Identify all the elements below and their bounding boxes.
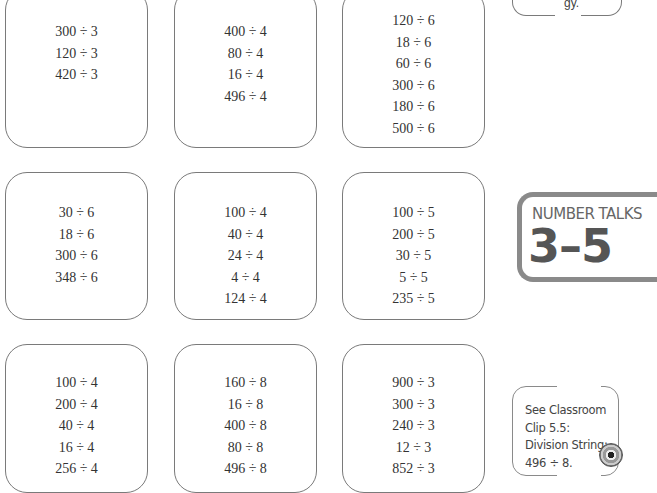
problem: 80 ÷ 4	[175, 43, 316, 65]
problem-card-r2c2: 100 ÷ 4 40 ÷ 4 24 ÷ 4 4 ÷ 4 124 ÷ 4	[174, 172, 317, 320]
problem: 80 ÷ 8	[175, 437, 316, 459]
problem: 100 ÷ 5	[343, 202, 484, 224]
problem: 300 ÷ 3	[343, 394, 484, 416]
badge-grade-range: 3–5	[528, 219, 612, 273]
problem: 18 ÷ 6	[6, 224, 147, 246]
problem: 60 ÷ 6	[343, 53, 484, 75]
problem: 124 ÷ 4	[175, 288, 316, 310]
problem: 235 ÷ 5	[343, 288, 484, 310]
problem: 300 ÷ 3	[6, 21, 147, 43]
problem: 420 ÷ 3	[6, 64, 147, 86]
problem: 200 ÷ 4	[6, 394, 147, 416]
problem: 496 ÷ 4	[175, 86, 316, 108]
problem: 200 ÷ 5	[343, 224, 484, 246]
top-note-text: gy.	[564, 0, 579, 10]
problem: 18 ÷ 6	[343, 32, 484, 54]
problem: 852 ÷ 3	[343, 458, 484, 480]
problem: 16 ÷ 4	[6, 437, 147, 459]
problem: 120 ÷ 3	[6, 43, 147, 65]
clip-note-text: See Classroom Clip 5.5: Division String:…	[525, 402, 608, 472]
problem-card-r1c3: 120 ÷ 6 18 ÷ 6 60 ÷ 6 300 ÷ 6 180 ÷ 6 50…	[342, 0, 485, 148]
number-talks-badge: NUMBER TALKS 3–5	[517, 192, 657, 282]
problem: 348 ÷ 6	[6, 267, 147, 289]
problem: 12 ÷ 3	[343, 437, 484, 459]
problem: 30 ÷ 6	[6, 202, 147, 224]
problem: 300 ÷ 6	[343, 75, 484, 97]
problem: 496 ÷ 8	[175, 458, 316, 480]
problem: 240 ÷ 3	[343, 415, 484, 437]
problem: 100 ÷ 4	[175, 202, 316, 224]
problem-card-r1c2: 400 ÷ 4 80 ÷ 4 16 ÷ 4 496 ÷ 4	[174, 0, 317, 148]
problem: 300 ÷ 6	[6, 245, 147, 267]
problem-card-r2c3: 100 ÷ 5 200 ÷ 5 30 ÷ 5 5 ÷ 5 235 ÷ 5	[342, 172, 485, 320]
problem-card-r3c2: 160 ÷ 8 16 ÷ 8 400 ÷ 8 80 ÷ 8 496 ÷ 8	[174, 344, 317, 493]
disc-icon	[599, 443, 623, 467]
problem: 5 ÷ 5	[343, 267, 484, 289]
problem: 40 ÷ 4	[6, 415, 147, 437]
problem: 16 ÷ 4	[175, 64, 316, 86]
problem: 16 ÷ 8	[175, 394, 316, 416]
problem: 40 ÷ 4	[175, 224, 316, 246]
problem: 30 ÷ 5	[343, 245, 484, 267]
problem: 24 ÷ 4	[175, 245, 316, 267]
problem-card-r3c3: 900 ÷ 3 300 ÷ 3 240 ÷ 3 12 ÷ 3 852 ÷ 3	[342, 344, 485, 493]
problem: 256 ÷ 4	[6, 458, 147, 480]
problem-card-r2c1: 30 ÷ 6 18 ÷ 6 300 ÷ 6 348 ÷ 6	[5, 172, 148, 320]
problem: 120 ÷ 6	[343, 10, 484, 32]
problem: 500 ÷ 6	[343, 118, 484, 140]
problem: 100 ÷ 4	[6, 372, 147, 394]
problem: 180 ÷ 6	[343, 96, 484, 118]
problem-card-r3c1: 100 ÷ 4 200 ÷ 4 40 ÷ 4 16 ÷ 4 256 ÷ 4	[5, 344, 148, 493]
problem: 400 ÷ 8	[175, 415, 316, 437]
problem: 4 ÷ 4	[175, 267, 316, 289]
problem: 900 ÷ 3	[343, 372, 484, 394]
problem-card-r1c1: 300 ÷ 3 120 ÷ 3 420 ÷ 3	[5, 0, 148, 148]
problem: 400 ÷ 4	[175, 21, 316, 43]
classroom-clip-note: See Classroom Clip 5.5: Division String:…	[512, 386, 619, 476]
problem: 160 ÷ 8	[175, 372, 316, 394]
